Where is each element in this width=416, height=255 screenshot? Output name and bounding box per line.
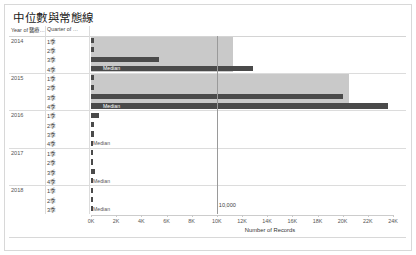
axis-tickmark [343,215,344,217]
bar[interactable] [91,122,94,127]
axis-tickmark [217,215,218,217]
group-separator [9,110,406,111]
axis-title-text: Number of Records [245,227,295,233]
bar[interactable] [91,38,94,43]
page-title: 中位數與常態線 [13,9,94,25]
row-label-quarter[interactable]: 2季 [47,197,56,205]
axis-tick-label: 4K [138,218,145,224]
column-header-quarter[interactable]: Quarter of … [47,26,78,32]
row-shelf-header: Year of 醫療… Quarter of … [5,26,411,36]
row-label-quarter[interactable]: 2季 [47,159,56,167]
axis-tick-label: 24K [388,218,398,224]
axis-tickmark [242,215,243,217]
plot-area: 20141季2季3季4季Median20151季2季3季4季Median2016… [5,36,411,214]
axis-tickmark [292,215,293,217]
axis-tickmark [91,215,92,217]
row-label-quarter[interactable]: 1季 [47,187,56,195]
bar[interactable] [91,47,94,52]
bar[interactable] [91,131,94,136]
axis-tickmark [393,215,394,217]
row-label-quarter[interactable]: 1季 [47,112,56,120]
axis-tickmark [368,215,369,217]
group-separator [9,185,406,186]
row-label-year[interactable]: 2017 [11,150,23,156]
median-label: Median [103,104,120,109]
reference-line [217,36,218,214]
bar[interactable] [91,57,159,62]
row-label-year[interactable]: 2014 [11,38,23,44]
row-label-quarter[interactable]: 1季 [47,75,56,83]
median-label: Median [93,179,110,184]
axis-tick-label: 18K [313,218,323,224]
row-label-year[interactable]: 2015 [11,75,23,81]
axis-title: Number of Records [5,227,411,233]
bar[interactable] [91,159,93,164]
row-label-quarter[interactable]: 3季 [47,56,56,64]
bar[interactable] [91,103,388,108]
axis-tick-label: 6K [163,218,170,224]
row-label-quarter[interactable]: 2季 [47,122,56,130]
row-label-quarter[interactable]: 3季 [47,94,56,102]
bottom-divider [9,237,406,238]
axis-tick-label: 8K [188,218,195,224]
row-label-quarter[interactable]: 1季 [47,38,56,46]
row-label-quarter[interactable]: 2季 [47,47,56,55]
median-label: Median [103,66,120,71]
axis-tick-label: 22K [363,218,373,224]
row-label-year[interactable]: 2016 [11,112,23,118]
row-label-quarter[interactable]: 2季 [47,84,56,92]
bar[interactable] [91,75,94,80]
row-label-quarter[interactable]: 3季 [47,206,56,214]
axis-tick-label: 10K [212,218,222,224]
viz-container: 中位數與常態線 Year of 醫療… Quarter of … 20141季2… [4,4,412,251]
column-header-year[interactable]: Year of 醫療… [11,26,45,34]
axis-tickmark [267,215,268,217]
bar[interactable] [91,113,99,118]
axis-tick-label: 2K [113,218,120,224]
row-label-quarter[interactable]: 3季 [47,169,56,177]
axis-tickmark [116,215,117,217]
bar[interactable] [91,197,93,202]
bar[interactable] [91,85,94,90]
row-label-year[interactable]: 2018 [11,187,23,193]
bar[interactable] [91,188,93,193]
median-label: Median [93,141,110,146]
median-label: Median [93,207,110,212]
reference-line-label: 10,000 [219,202,236,208]
axis-tickmark [141,215,142,217]
axis-tick-label: 12K [237,218,247,224]
axis-tick-label: 14K [262,218,272,224]
axis-tickmark [318,215,319,217]
axis-tick-label: 16K [288,218,298,224]
axis-tickmark [167,215,168,217]
bar[interactable] [91,150,93,155]
row-label-quarter[interactable]: 3季 [47,131,56,139]
row-label-quarter[interactable]: 1季 [47,150,56,158]
group-separator [9,148,406,149]
bar[interactable] [91,169,95,174]
axis-tick-label: 0K [88,218,95,224]
axis-tick-label: 20K [338,218,348,224]
axis-tickmark [192,215,193,217]
